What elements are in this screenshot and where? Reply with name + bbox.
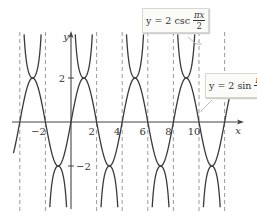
fraction-numerator: πx — [193, 10, 205, 21]
y-axis-label: y — [62, 31, 69, 42]
y-tick-label: −2 — [76, 161, 91, 172]
x-tick-label: 6 — [140, 126, 146, 137]
x-tick-label: 10 — [188, 126, 201, 137]
fraction-numerator: πx — [254, 75, 257, 86]
fraction-denominator: 2 — [196, 21, 201, 31]
sin-fraction: πx 2 — [254, 75, 257, 96]
x-tick-label: 8 — [165, 126, 171, 137]
csc-fraction: πx 2 — [193, 10, 205, 31]
tick-labels: −22468102−2xy — [31, 31, 241, 172]
y-tick-label: 2 — [59, 73, 65, 84]
x-tick-label: −2 — [31, 126, 46, 137]
csc-branch — [101, 166, 118, 207]
sin-equation-prefix: y = 2 sin — [209, 80, 251, 91]
chart-canvas: −22468102−2xy — [0, 0, 257, 221]
sin-equation-label: y = 2 sin πx 2 — [205, 73, 257, 98]
csc-branch — [152, 166, 169, 207]
csc-branch — [203, 166, 220, 207]
csc-branch — [126, 34, 143, 78]
csc-equation-prefix: y = 2 csc — [146, 15, 190, 26]
x-tick-label: 2 — [88, 126, 94, 137]
sin-leader-line — [201, 100, 212, 112]
csc-branch — [24, 34, 41, 78]
csc-branch — [50, 166, 67, 207]
csc-branch — [75, 34, 92, 78]
csc-equation-label: y = 2 csc πx 2 — [142, 8, 209, 33]
x-tick-label: 4 — [114, 126, 120, 137]
x-axis-label: x — [235, 125, 241, 136]
